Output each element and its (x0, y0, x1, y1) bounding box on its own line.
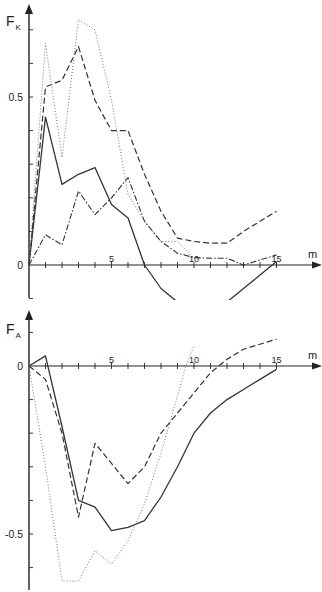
x-tick-label: 10 (189, 355, 199, 365)
x-axis-arrow-icon (312, 363, 322, 370)
y-tick-label: 0 (17, 360, 23, 372)
x-tick-label: 15 (271, 355, 281, 365)
series-dash-dot (29, 178, 277, 265)
axes: 510150-0.5FAm (5, 310, 322, 590)
y-axis-arrow-icon (25, 310, 33, 320)
y-tick-label: 0 (17, 259, 23, 271)
y-axis-label: FK (6, 13, 22, 32)
series-group (29, 20, 277, 300)
series-solid (29, 356, 277, 531)
y-axis-label: FA (6, 321, 22, 340)
chart-fa: 510150-0.5FAm (0, 300, 322, 592)
x-axis-label: m (308, 349, 317, 361)
y-tick-label: 0.5 (8, 91, 23, 103)
x-tick-label: 5 (109, 254, 114, 264)
chart-fk: 5101500.5FKm (0, 0, 322, 300)
series-group (29, 339, 277, 581)
x-axis-arrow-icon (312, 262, 322, 269)
y-tick-label: -0.5 (5, 528, 23, 540)
figure: 5101500.5FKm 510150-0.5FAm (0, 0, 322, 592)
x-axis-label: m (308, 248, 317, 260)
x-tick-label: 5 (109, 355, 114, 365)
x-tick-label: 10 (189, 254, 199, 264)
y-axis-arrow-icon (25, 4, 33, 14)
series-solid (29, 117, 277, 300)
series-dotted (29, 20, 194, 265)
